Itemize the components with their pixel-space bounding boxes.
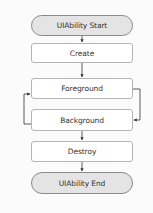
node-background: Background <box>31 109 133 131</box>
node-create: Create <box>31 43 133 63</box>
node-destroy: Destroy <box>31 141 133 162</box>
edge-background-foreground <box>24 94 31 124</box>
diagram-canvas: UIAbility Start Create Foreground Backgr… <box>0 0 153 213</box>
node-uiability-start: UIAbility Start <box>31 15 133 36</box>
node-foreground: Foreground <box>31 78 133 99</box>
edge-foreground-background <box>133 89 140 120</box>
node-uiability-end: UIAbility End <box>31 172 133 194</box>
